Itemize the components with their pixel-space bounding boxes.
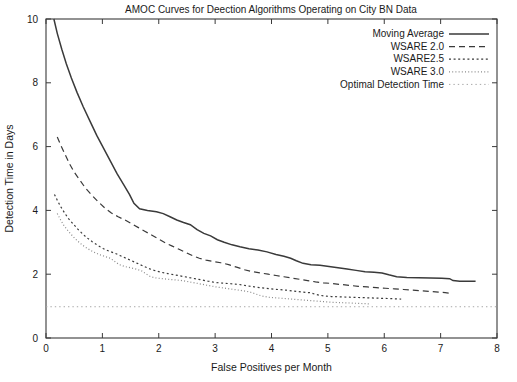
y-axis-title: Detection Time in Days [3, 125, 15, 233]
y-tick-label: 10 [27, 14, 39, 25]
chart-title: AMOC Curves for Deection Algorithms Oper… [125, 4, 417, 15]
x-tick-label: 0 [43, 343, 49, 354]
x-tick-label: 8 [494, 343, 500, 354]
y-tick-label: 8 [32, 77, 38, 88]
x-tick-label: 4 [269, 343, 275, 354]
x-tick-label: 3 [212, 343, 218, 354]
x-tick-label: 1 [100, 343, 106, 354]
x-tick-label: 2 [156, 343, 162, 354]
amoc-chart-svg: AMOC Curves for Deection Algorithms Oper… [0, 0, 517, 382]
legend-label-optimal-detection-time: Optimal Detection Time [340, 79, 444, 90]
x-tick-label: 5 [325, 343, 331, 354]
y-tick-label: 2 [32, 269, 38, 280]
legend-label-wsare-2-0: WSARE 2.0 [391, 41, 445, 52]
x-tick-label: 7 [438, 343, 444, 354]
y-tick-label: 6 [32, 141, 38, 152]
legend-label-wsare-3-0: WSARE 3.0 [391, 66, 445, 77]
y-tick-label: 0 [32, 333, 38, 344]
axes-group: 0123456780246810 [27, 14, 500, 355]
legend-label-moving-average: Moving Average [372, 28, 444, 39]
series-line-wsare-3-0 [57, 214, 369, 304]
series-line-wsare-2-0 [57, 137, 452, 293]
x-axis-title: False Positives per Month [211, 361, 332, 373]
legend-label-wsare2-5: WSARE2.5 [393, 53, 444, 64]
y-tick-label: 4 [32, 205, 38, 216]
axis-labels-group: False Positives per MonthDetection Time … [3, 125, 332, 373]
series-line-wsare2-5 [54, 194, 401, 299]
chart-figure: AMOC Curves for Deection Algorithms Oper… [0, 0, 517, 382]
chart-legend: Moving AverageWSARE 2.0WSARE2.5WSARE 3.0… [340, 28, 489, 89]
x-tick-label: 6 [381, 343, 387, 354]
chart-title-group: AMOC Curves for Deection Algorithms Oper… [125, 4, 417, 15]
